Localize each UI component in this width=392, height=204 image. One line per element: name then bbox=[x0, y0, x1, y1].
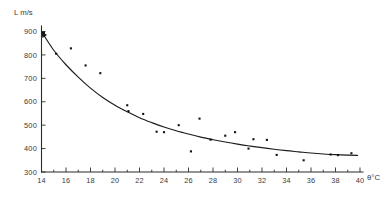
x-tick-label: 26 bbox=[184, 176, 193, 185]
y-axis-tick-labels: 300400500600700800900 bbox=[24, 27, 37, 177]
x-tick-label: 28 bbox=[209, 176, 218, 185]
y-tick-label: 700 bbox=[24, 74, 37, 83]
x-axis-ticks bbox=[42, 168, 361, 173]
data-point bbox=[85, 64, 87, 66]
data-point bbox=[330, 153, 332, 155]
x-tick-label: 40 bbox=[356, 176, 365, 185]
x-tick-label: 24 bbox=[160, 176, 169, 185]
data-point bbox=[198, 118, 200, 120]
x-axis-title-group: θ°C bbox=[367, 173, 380, 182]
x-tick-label: 38 bbox=[331, 176, 340, 185]
y-axis-ticks bbox=[42, 32, 46, 173]
data-point bbox=[247, 148, 249, 150]
x-tick-label: 22 bbox=[135, 176, 144, 185]
chart-figure: L m/s θ°C 300400500600700800900 14161820… bbox=[0, 0, 392, 204]
x-tick-label: 18 bbox=[86, 176, 95, 185]
y-tick-label: 500 bbox=[24, 121, 37, 130]
data-point bbox=[163, 131, 165, 133]
data-point bbox=[234, 131, 236, 133]
x-tick-label: 16 bbox=[62, 176, 71, 185]
data-point bbox=[266, 139, 268, 141]
y-tick-label: 900 bbox=[24, 27, 37, 36]
y-tick-label: 600 bbox=[24, 97, 37, 106]
data-point bbox=[178, 124, 180, 126]
data-point bbox=[303, 159, 305, 161]
data-point bbox=[224, 135, 226, 137]
data-point bbox=[156, 131, 158, 133]
y-axis-title-group: L m/s bbox=[14, 8, 33, 17]
x-tick-label: 32 bbox=[258, 176, 267, 185]
x-axis-title: θ°C bbox=[367, 173, 380, 182]
x-tick-label: 14 bbox=[37, 176, 46, 185]
fitted-curve bbox=[42, 32, 358, 156]
data-point bbox=[55, 53, 57, 55]
data-points-group bbox=[43, 32, 353, 162]
y-tick-label: 300 bbox=[24, 168, 37, 177]
data-point bbox=[43, 32, 45, 34]
data-point bbox=[337, 154, 339, 156]
fitted-curve-group bbox=[41, 31, 358, 156]
x-axis-tick-labels: 1416182022242628303234363840 bbox=[37, 176, 364, 185]
data-point bbox=[70, 47, 72, 49]
data-point bbox=[276, 154, 278, 156]
x-tick-label: 34 bbox=[282, 176, 291, 185]
x-tick-label: 36 bbox=[307, 176, 316, 185]
y-tick-label: 800 bbox=[24, 51, 37, 60]
x-tick-label: 30 bbox=[233, 176, 242, 185]
y-tick-label: 400 bbox=[24, 144, 37, 153]
y-axis-title: L m/s bbox=[14, 8, 33, 17]
data-point bbox=[126, 104, 128, 106]
data-point bbox=[210, 139, 212, 141]
axis-lines bbox=[42, 26, 364, 172]
data-point bbox=[190, 150, 192, 152]
scatter-plot-canvas: L m/s θ°C 300400500600700800900 14161820… bbox=[0, 0, 392, 204]
data-point bbox=[252, 138, 254, 140]
x-tick-label: 20 bbox=[111, 176, 120, 185]
data-point bbox=[142, 113, 144, 115]
data-point bbox=[127, 110, 129, 112]
data-point bbox=[350, 152, 352, 154]
data-point bbox=[99, 72, 101, 74]
